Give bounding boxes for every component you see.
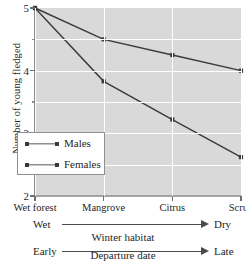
- legend-label-males: Males: [64, 138, 91, 149]
- legend-swatch-females: [23, 159, 61, 171]
- gridline-vertical: [241, 8, 242, 196]
- y-tick-minor: [32, 39, 36, 40]
- x-tick: [103, 196, 104, 201]
- gridline-horizontal: [35, 102, 241, 103]
- habitat-axis-caption: Winter habitat: [0, 232, 246, 243]
- x-tick: [34, 196, 35, 201]
- x-tick-label: Wet forest: [13, 203, 56, 214]
- x-tick-label: Scrub: [229, 203, 246, 214]
- y-tick-label: 2: [24, 191, 30, 202]
- y-tick-label: 5: [24, 3, 30, 14]
- gridline-horizontal: [35, 71, 241, 72]
- legend-swatch-males: [23, 138, 61, 150]
- habitat-axis-right-label: Dry: [214, 216, 231, 232]
- legend-label-females: Females: [64, 159, 101, 170]
- gridline-horizontal: [35, 39, 241, 40]
- y-tick-major: [30, 70, 35, 71]
- y-tick-minor: [32, 101, 36, 102]
- y-tick-label: 4: [24, 65, 30, 76]
- x-tick-label: Citrus: [159, 203, 185, 214]
- legend: Males Females: [17, 132, 105, 175]
- legend-item-females[interactable]: Females: [18, 154, 104, 175]
- legend-item-males[interactable]: Males: [18, 133, 104, 154]
- departure-axis-caption: Departure date: [0, 250, 246, 261]
- figure: Number of young fledged 2345Wet forestMa…: [0, 0, 246, 262]
- gridline-vertical: [172, 8, 173, 196]
- x-tick: [172, 196, 173, 201]
- x-tick-label: Mangrove: [82, 203, 125, 214]
- habitat-axis-arrow: [62, 224, 210, 226]
- x-tick: [240, 196, 241, 201]
- y-tick-major: [30, 7, 35, 8]
- habitat-axis-left-label: Wet: [33, 216, 50, 232]
- habitat-gradient-axis: Wet Dry: [0, 216, 246, 232]
